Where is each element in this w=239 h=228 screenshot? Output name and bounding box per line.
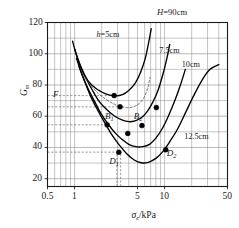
curve-10cm [77, 58, 186, 147]
y-axis-title-sub: m [23, 85, 30, 90]
annotation-D2: D2 [167, 149, 177, 158]
chart-title-rest: =90cm [163, 7, 187, 17]
y-tick-label-40: 40 [33, 142, 43, 152]
annotation-D1-main: D [109, 156, 116, 166]
y-axis-title: Gm [13, 85, 31, 96]
curve-label-12point5cm: 12.5cm [184, 133, 208, 141]
annotation-B2: B2 [134, 112, 143, 121]
x-tick-label-5: 5 [135, 192, 140, 202]
annotation-B1: B1 [105, 112, 114, 121]
x-tick-label-10: 10 [160, 192, 170, 202]
data-marker-B2 [139, 123, 144, 128]
curve-label-h5cm: h=5cm [96, 31, 119, 39]
x-tick-label-50: 50 [223, 192, 233, 202]
data-marker [118, 104, 123, 109]
y-tick-label-60: 60 [33, 111, 43, 121]
curve-label-10cm: 10cm [182, 61, 200, 69]
annotation-D2-sub: 2 [173, 152, 176, 159]
curve-12.5cm [79, 65, 219, 163]
guide-lines [48, 96, 121, 187]
data-marker [154, 105, 159, 110]
data-marker [125, 131, 130, 136]
data-marker [112, 93, 117, 98]
annotation-B1-main: B [105, 111, 111, 121]
chart-title: H=90cm [157, 8, 187, 17]
annotation-D1-sub: 1 [116, 160, 119, 167]
annotation-D1: D1 [109, 157, 119, 166]
annotation-B1-sub: 1 [111, 115, 114, 122]
y-axis-title-main: G [19, 89, 29, 96]
x-axis-title: σe/kPa [132, 205, 156, 221]
x-tick-label-1: 1 [72, 192, 77, 202]
y-tick-label-120: 120 [29, 18, 43, 28]
x-tick-label-0point5: 0.5 [42, 192, 54, 202]
chart-figure: H=90cm Gm σe/kPa 20 40 60 80 100 120 0.5… [0, 0, 239, 228]
data-markers [105, 93, 169, 155]
annotation-B2-sub: 2 [139, 115, 142, 122]
data-marker-B1 [105, 122, 110, 127]
y-tick-label-20: 20 [33, 174, 43, 184]
data-marker-D1 [116, 150, 121, 155]
curve-label-h5cm-rest: =5cm [101, 30, 120, 39]
y-tick-label-100: 100 [29, 49, 43, 59]
y-tick-label-80: 80 [33, 80, 43, 90]
annotation-F: F [53, 90, 59, 99]
curve-label-7point5cm: 7.5cm [159, 47, 179, 55]
x-axis-title-rest: /kPa [139, 210, 156, 220]
x-axis-title-sub: e [136, 214, 139, 221]
